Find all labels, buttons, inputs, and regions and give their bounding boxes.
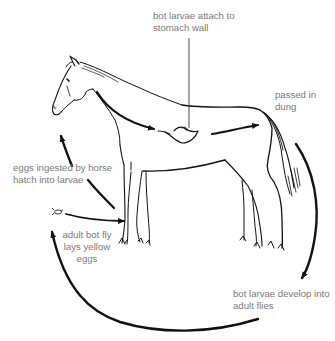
label-stomach-wall: bot larvae attach to stomach wall <box>153 10 235 34</box>
label-ingested-line2: hatch into larvae <box>13 174 112 186</box>
label-adult-bot-fly: adult bot fly lays yellow eggs <box>58 229 116 265</box>
bot-fly-lifecycle-diagram: bot larvae attach to stomach wall passed… <box>0 0 335 341</box>
label-passed-in-dung: passed in dung <box>275 89 316 113</box>
arrow-dung-to-develop <box>296 144 317 278</box>
bot-fly-icon <box>52 208 63 215</box>
label-eggs-ingested: eggs ingested by horse hatch into larvae <box>13 162 112 186</box>
horse-outline <box>52 56 300 250</box>
label-dung-line1: passed in <box>275 89 316 101</box>
label-ingested-line1: eggs ingested by horse <box>13 162 112 174</box>
label-stomach-line2: stomach wall <box>153 22 235 34</box>
label-dung-line2: dung <box>275 101 316 113</box>
label-stomach-line1: bot larvae attach to <box>153 10 235 22</box>
arrow-fly-to-leg <box>66 214 124 221</box>
label-adult-fly-line2: lays yellow <box>58 241 116 253</box>
label-develop-line1: bot larvae develop into <box>233 288 330 300</box>
label-adult-fly-line3: eggs <box>58 253 116 265</box>
label-develop-into-flies: bot larvae develop into adult flies <box>233 288 330 312</box>
label-develop-line2: adult flies <box>233 300 330 312</box>
label-adult-fly-line1: adult bot fly <box>58 229 116 241</box>
